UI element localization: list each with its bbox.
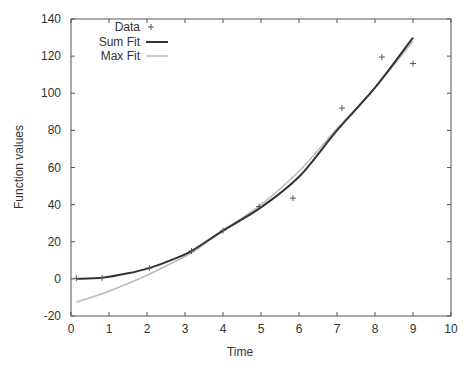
data-point-marker bbox=[339, 105, 345, 111]
legend-label-data: Data bbox=[115, 20, 141, 34]
y-tick-label: 100 bbox=[41, 86, 61, 100]
series-layer bbox=[73, 38, 416, 303]
x-tick-label: 3 bbox=[182, 322, 189, 336]
legend-marker-data bbox=[148, 24, 154, 30]
y-tick-label: 20 bbox=[48, 235, 62, 249]
x-tick-label: 1 bbox=[106, 322, 113, 336]
x-tick-label: 7 bbox=[334, 322, 341, 336]
data-point-marker bbox=[146, 265, 152, 271]
x-tick-label: 5 bbox=[258, 322, 265, 336]
data-point-marker bbox=[379, 54, 385, 60]
y-tick-label: 120 bbox=[41, 49, 61, 63]
legend-label-sum-fit: Sum Fit bbox=[99, 35, 141, 49]
series-line-max-fit bbox=[76, 41, 413, 302]
legend-label-max-fit: Max Fit bbox=[101, 49, 141, 63]
x-tick-label: 8 bbox=[372, 322, 379, 336]
x-tick-label: 0 bbox=[68, 322, 75, 336]
x-tick-label: 9 bbox=[410, 322, 417, 336]
data-point-marker bbox=[73, 275, 79, 281]
x-tick-label: 4 bbox=[220, 322, 227, 336]
x-tick-label: 10 bbox=[444, 322, 458, 336]
y-tick-label: 60 bbox=[48, 161, 62, 175]
data-point-marker bbox=[99, 275, 105, 281]
y-tick-label: 80 bbox=[48, 123, 62, 137]
y-tick-label: 0 bbox=[54, 272, 61, 286]
y-axis-label: Function values bbox=[12, 125, 26, 209]
legend: Data Sum Fit Max Fit bbox=[99, 20, 168, 63]
y-tick-label: -20 bbox=[44, 309, 62, 323]
data-point-marker bbox=[290, 195, 296, 201]
x-tick-label: 2 bbox=[144, 322, 151, 336]
x-tick-label: 6 bbox=[296, 322, 303, 336]
chart: 012345678910-20020406080100120140 Time F… bbox=[0, 0, 469, 371]
y-tick-label: 140 bbox=[41, 12, 61, 26]
y-tick-label: 40 bbox=[48, 198, 62, 212]
data-point-marker bbox=[410, 61, 416, 67]
series-line-sum-fit bbox=[76, 38, 413, 279]
x-axis-label: Time bbox=[227, 345, 254, 359]
